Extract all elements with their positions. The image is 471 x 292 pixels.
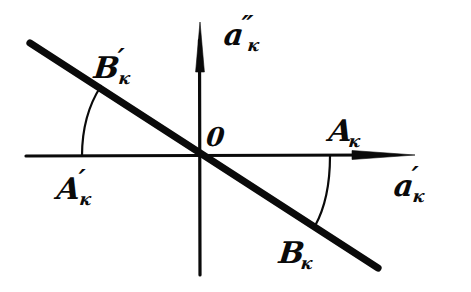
origin-label: 0 (205, 124, 225, 150)
horizontal-axis-arrow-icon (352, 151, 415, 160)
angle-arc-lower-right (315, 156, 330, 226)
point-label-a-k: Aк (327, 116, 362, 150)
point-label-b-k: Bк (277, 238, 314, 272)
vertical-axis-line (200, 40, 201, 275)
horizontal-axis-label-subscript: к (412, 186, 425, 206)
vertical-axis-label: a″к (222, 12, 262, 54)
point-label-b-prime-k-subscript: к (118, 68, 131, 88)
point-label-a-k-subscript: к (348, 131, 361, 151)
figure-canvas: a″к a′к 0 B′к A′к Aк Bк (0, 0, 471, 292)
point-label-a-prime-k: A′к (55, 166, 94, 208)
vertical-axis-arrow-icon (196, 22, 205, 72)
origin-label-text: 0 (205, 122, 226, 152)
vertical-axis-label-subscript: к (246, 35, 259, 55)
angle-arc-upper-left (82, 86, 101, 156)
point-label-a-prime-k-subscript: к (79, 189, 92, 209)
horizontal-axis-label: a′к (392, 163, 427, 205)
point-label-b-k-subscript: к (300, 253, 313, 273)
point-label-b-prime-k: B′к (92, 45, 133, 87)
